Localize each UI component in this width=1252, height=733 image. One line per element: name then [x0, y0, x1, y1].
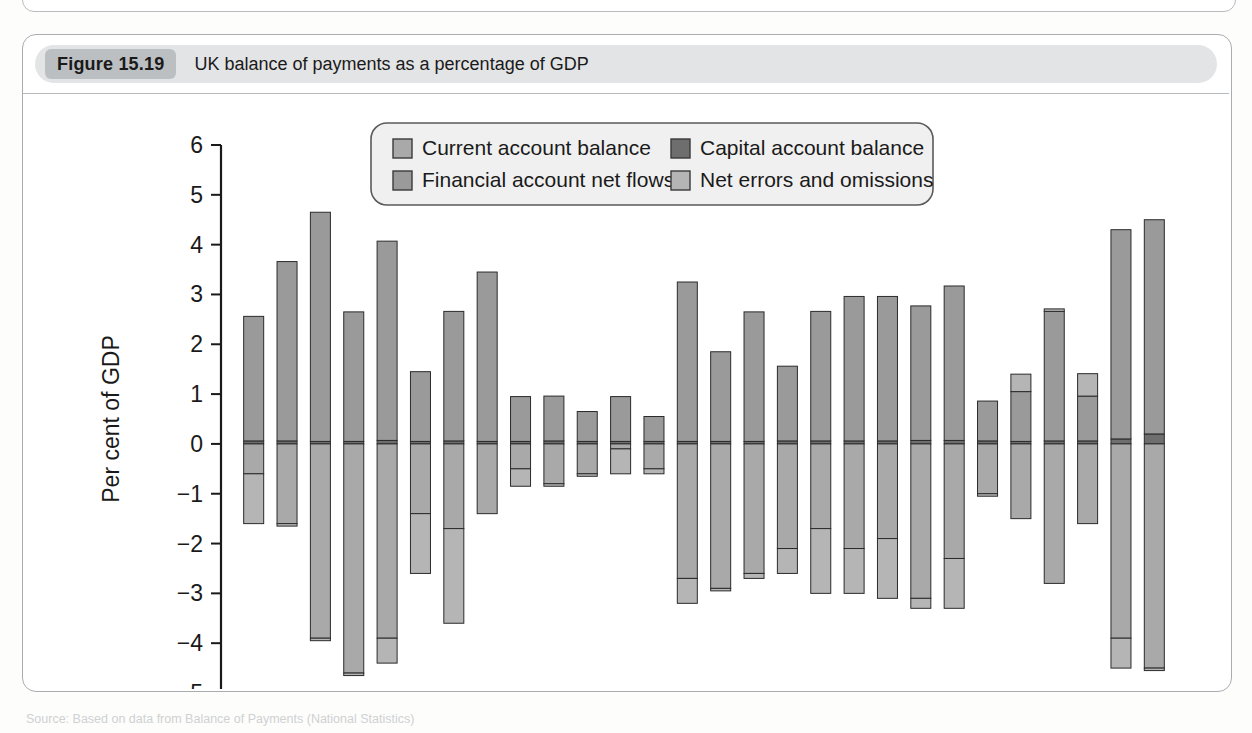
bar-segment-net-errors-1995: [544, 484, 564, 486]
bar-segment-net-errors-1992: [444, 529, 464, 624]
y-tick-label-1: 1: [190, 381, 203, 407]
bar-group-2003: [811, 311, 831, 593]
bar-group-1993: [477, 272, 497, 514]
legend-swatch-financial_account: [393, 171, 412, 190]
bar-segment-financial-account-1995: [544, 396, 564, 441]
bar-segment-financial-account-1988: [310, 212, 330, 441]
bar-group-2013: [1144, 220, 1164, 671]
bar-segment-current-account-1996: [577, 444, 597, 474]
bar-segment-capital-account-1990: [377, 440, 397, 443]
legend-swatch-current_account: [393, 139, 412, 158]
figure-number-tag: Figure 15.19: [45, 49, 176, 79]
bar-segment-net-errors-1990: [377, 638, 397, 663]
bar-group-1999: [677, 282, 697, 603]
bar-group-2004: [844, 296, 864, 593]
bar-group-2010: [1044, 309, 1064, 584]
y-tick-label--2: −2: [177, 531, 203, 557]
bar-group-1992: [444, 311, 464, 623]
bar-segment-net-errors-2009: [1011, 374, 1031, 391]
bar-segment-current-account-2003: [811, 444, 831, 529]
source-note: Source: Based on data from Balance of Pa…: [26, 712, 414, 726]
y-tick-label-0: 0: [190, 431, 203, 457]
y-tick-label--5: −5: [177, 680, 203, 689]
y-tick-label--1: −1: [177, 481, 203, 507]
bar-segment-financial-account-2005: [877, 296, 897, 440]
bar-group-1988: [310, 212, 330, 640]
bar-segment-net-errors-1986: [244, 474, 264, 524]
bar-segment-net-errors-2008: [978, 494, 998, 496]
bar-segment-financial-account-2003: [811, 311, 831, 441]
bar-segment-net-errors-1997: [611, 449, 631, 474]
bar-segment-financial-account-1997: [611, 397, 631, 442]
y-tick-label-2: 2: [190, 331, 203, 357]
legend-label-capital_account: Capital account balance: [700, 136, 924, 159]
y-axis-title: Per cent of GDP: [98, 335, 124, 502]
bar-segment-financial-account-2013: [1144, 220, 1164, 434]
bar-segment-financial-account-2010: [1044, 311, 1064, 441]
bar-group-2012: [1111, 230, 1131, 668]
bar-segment-capital-account-2006: [911, 440, 931, 443]
bar-segment-net-errors-2011: [1078, 374, 1098, 396]
bar-segment-financial-account-1990: [377, 241, 397, 440]
bar-group-1986: [244, 316, 264, 523]
bar-group-2007: [944, 286, 964, 608]
bar-segment-current-account-1988: [310, 444, 330, 638]
bar-segment-financial-account-1998: [644, 417, 664, 442]
bar-segment-net-errors-2000: [711, 588, 731, 590]
bar-group-1995: [544, 396, 564, 486]
bar-segment-net-errors-2001: [744, 573, 764, 578]
bar-segment-net-errors-1991: [410, 514, 430, 574]
bar-segment-financial-account-2007: [944, 286, 964, 440]
bar-segment-financial-account-2000: [711, 352, 731, 442]
bar-segment-financial-account-1987: [277, 262, 297, 441]
bar-segment-net-errors-2002: [777, 549, 797, 574]
bar-segment-current-account-1997: [611, 444, 631, 449]
bar-group-1997: [611, 397, 631, 474]
figure-header-band: Figure 15.19 UK balance of payments as a…: [35, 45, 1217, 83]
bar-segment-net-errors-1996: [577, 474, 597, 476]
bar-group-1987: [277, 262, 297, 527]
y-tick-label--3: −3: [177, 580, 203, 606]
bar-segment-current-account-1992: [444, 444, 464, 529]
bar-segment-net-errors-1994: [511, 469, 531, 486]
bar-segment-financial-account-2004: [844, 296, 864, 440]
bar-segment-current-account-2002: [777, 444, 797, 549]
bar-segment-capital-account-2007: [944, 440, 964, 443]
y-ticks-group: −5−4−3−2−10123456: [177, 132, 221, 689]
bar-segment-current-account-2010: [1044, 444, 1064, 583]
bar-segment-financial-account-2006: [911, 306, 931, 441]
bar-segment-net-errors-2013: [1144, 668, 1164, 670]
bar-segment-net-errors-2010: [1044, 309, 1064, 311]
bar-segment-financial-account-1989: [344, 312, 364, 442]
y-tick-label--4: −4: [177, 630, 203, 656]
figure-container: Figure 15.19 UK balance of payments as a…: [22, 34, 1232, 692]
bar-segment-current-account-2013: [1144, 444, 1164, 668]
bar-group-1996: [577, 412, 597, 477]
plot-area: −5−4−3−2−10123456Per cent of GDP19871992…: [23, 93, 1229, 689]
bar-segment-financial-account-1992: [444, 311, 464, 441]
y-tick-label-3: 3: [190, 281, 203, 307]
bar-segment-financial-account-2008: [978, 401, 998, 441]
bar-segment-net-errors-2004: [844, 549, 864, 594]
legend-label-financial_account: Financial account net flows: [422, 168, 674, 191]
bar-segment-current-account-1998: [644, 444, 664, 469]
bar-segment-current-account-1989: [344, 444, 364, 673]
figure-title: UK balance of payments as a percentage o…: [194, 54, 588, 75]
bar-segment-net-errors-1998: [644, 469, 664, 474]
bar-group-2011: [1078, 374, 1098, 524]
bar-segment-current-account-2001: [744, 444, 764, 574]
bar-segment-current-account-2009: [1011, 444, 1031, 519]
bar-segment-financial-account-2009: [1011, 392, 1031, 442]
bar-group-2006: [911, 306, 931, 608]
bar-group-2009: [1011, 374, 1031, 518]
bar-segment-current-account-1993: [477, 444, 497, 514]
bar-group-2002: [777, 366, 797, 573]
legend-group: Current account balanceCapital account b…: [371, 123, 933, 205]
figure-page: Figure 15.19 UK balance of payments as a…: [0, 0, 1252, 733]
legend-label-net_errors: Net errors and omissions: [700, 168, 933, 191]
bar-segment-net-errors-1988: [310, 638, 330, 640]
bar-segment-financial-account-1993: [477, 272, 497, 441]
bar-group-1998: [644, 417, 664, 474]
bar-segment-current-account-2008: [978, 444, 998, 494]
bar-segment-current-account-1986: [244, 444, 264, 474]
